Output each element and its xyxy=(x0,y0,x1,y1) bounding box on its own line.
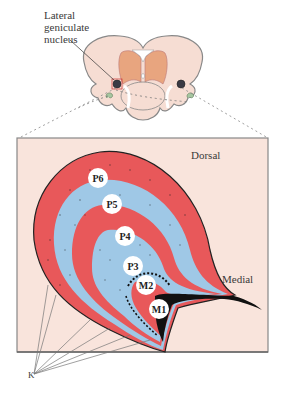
lgn-diagram-svg xyxy=(0,0,283,406)
layer-badge-p5: P5 xyxy=(102,194,122,214)
koniocellular-label: K xyxy=(28,370,35,380)
dorsal-label: Dorsal xyxy=(191,149,220,161)
zoom-line-left xyxy=(19,88,116,138)
label-line-3: nucleus xyxy=(44,33,89,45)
label-line-1: Lateral xyxy=(44,9,89,21)
lgn-overview-label: Lateral geniculate nucleus xyxy=(44,9,89,45)
brain-section xyxy=(70,36,203,120)
lgn-figure: Lateral geniculate nucleus Dorsal Medial… xyxy=(0,0,283,406)
layer-badge-p4: P4 xyxy=(115,226,135,246)
layer-badge-m1: M1 xyxy=(149,299,169,319)
label-line-2: geniculate xyxy=(44,21,89,33)
medial-label: Medial xyxy=(222,273,253,285)
layer-badge-p3: P3 xyxy=(123,256,143,276)
layer-badge-m2: M2 xyxy=(136,275,156,295)
zoom-line-right xyxy=(182,88,268,138)
layer-badge-p6: P6 xyxy=(88,168,108,188)
